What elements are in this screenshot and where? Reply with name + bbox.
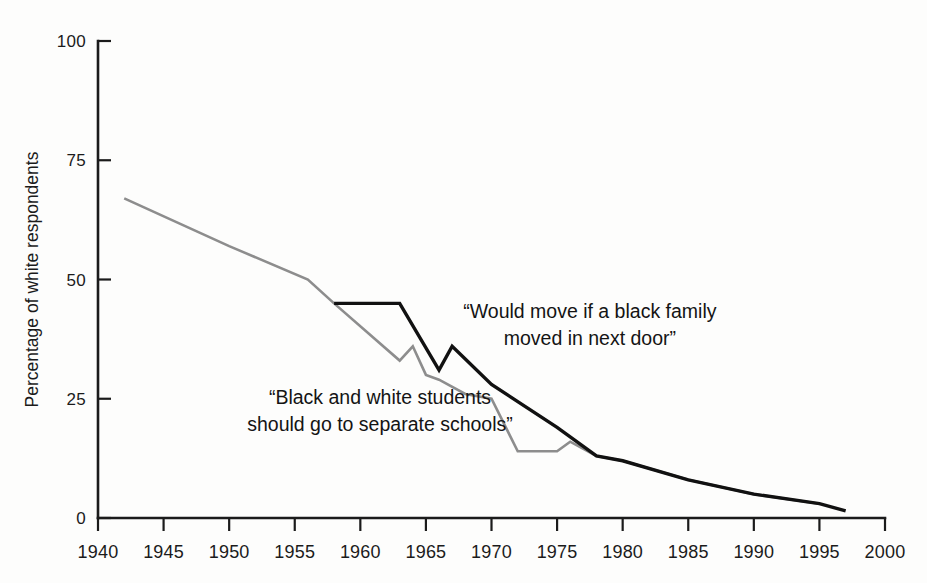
chart-figure: 0255075100 19401945195019551960196519701…: [0, 0, 927, 583]
y-tick-label-0: 0: [76, 509, 86, 528]
y-tick-label-25: 25: [66, 390, 86, 409]
y-axis-ticks: [98, 41, 111, 518]
x-axis-tick-labels: 1940194519501955196019651970197519801985…: [78, 542, 906, 562]
x-tick-label-1965: 1965: [405, 542, 446, 562]
x-tick-label-1955: 1955: [274, 542, 315, 562]
annotation-would-move-line-1: “Would move if a black family: [463, 300, 716, 322]
annotations-group: “Would move if a black familymoved in ne…: [247, 300, 717, 435]
x-tick-label-1950: 1950: [209, 542, 250, 562]
annotation-separate-schools-line-1: “Black and white students: [269, 386, 491, 408]
annotation-would-move: “Would move if a black familymoved in ne…: [463, 300, 716, 349]
y-axis-title: Percentage of white respondents: [22, 151, 42, 407]
data-series-group: [124, 198, 845, 510]
y-tick-label-100: 100: [57, 32, 86, 51]
annotation-separate-schools-line-2: should go to separate schools”: [247, 413, 513, 435]
x-tick-label-1990: 1990: [733, 542, 774, 562]
x-tick-label-1960: 1960: [340, 542, 381, 562]
y-axis-tick-labels: 0255075100: [57, 32, 86, 528]
x-tick-label-1975: 1975: [537, 542, 578, 562]
x-tick-label-1980: 1980: [602, 542, 643, 562]
x-tick-label-1940: 1940: [78, 542, 119, 562]
x-tick-label-2000: 2000: [865, 542, 906, 562]
x-tick-label-1985: 1985: [668, 542, 709, 562]
y-tick-label-75: 75: [66, 151, 86, 170]
x-tick-label-1995: 1995: [799, 542, 840, 562]
annotation-would-move-line-2: moved in next door”: [504, 327, 676, 349]
annotation-separate-schools: “Black and white studentsshould go to se…: [247, 386, 513, 435]
x-axis-ticks: [98, 518, 885, 531]
x-tick-label-1970: 1970: [471, 542, 512, 562]
line-chart: 0255075100 19401945195019551960196519701…: [0, 0, 927, 583]
y-tick-label-50: 50: [66, 271, 86, 290]
x-tick-label-1945: 1945: [143, 542, 184, 562]
series-line-separate-schools: [124, 198, 819, 503]
